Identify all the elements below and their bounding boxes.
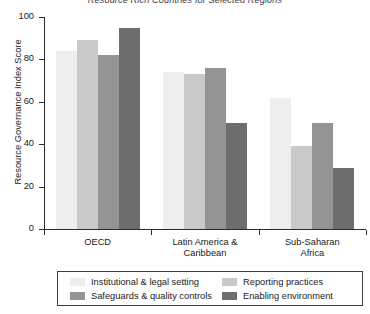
x-group-label-line: Latin America & [151, 237, 258, 248]
legend-label: Reporting practices [243, 277, 323, 287]
legend-entry: Reporting practices [222, 277, 323, 287]
x-group-label-line: OECD [44, 237, 151, 248]
x-tick-mark [151, 230, 152, 235]
y-tick-label: 40 [0, 139, 34, 148]
y-tick-label: 0 [0, 224, 34, 233]
bar-group [163, 17, 247, 229]
legend-entry: Enabling environment [222, 291, 333, 301]
x-group-label: Latin America &Caribbean [151, 237, 258, 259]
legend-swatch [222, 292, 237, 300]
bar [119, 28, 140, 229]
legend-swatch [70, 292, 85, 300]
bar [291, 146, 312, 229]
x-group-label-line: Caribbean [151, 248, 258, 259]
y-tick-label: 20 [0, 182, 34, 191]
x-tick-mark [44, 230, 45, 235]
x-tick-mark [366, 230, 367, 235]
legend-swatch [70, 278, 85, 286]
bar [163, 72, 184, 229]
bar [312, 123, 333, 229]
chart-title: Resource Rich Countries for Selected Reg… [0, 0, 370, 5]
y-tick-label: 60 [0, 97, 34, 106]
x-group-label-line: Sub-Saharan [259, 237, 366, 248]
bar-group [270, 17, 354, 229]
resource-governance-bar-chart: Resource Rich Countries for Selected Reg… [0, 0, 370, 314]
bar [333, 168, 354, 229]
x-group-label: Sub-SaharanAfrica [259, 237, 366, 259]
bar [270, 98, 291, 229]
x-tick-mark [259, 230, 260, 235]
legend-label: Enabling environment [243, 291, 333, 301]
x-group-label: OECD [44, 237, 151, 248]
bar [98, 55, 119, 229]
chart-legend: Institutional & legal settingReporting p… [57, 271, 363, 306]
bar-group [56, 17, 140, 229]
legend-swatch [222, 278, 237, 286]
bar [77, 40, 98, 229]
bar [205, 68, 226, 229]
y-tick-label: 100 [0, 12, 34, 21]
legend-label: Safeguards & quality controls [91, 291, 212, 301]
bar [56, 51, 77, 229]
x-axis-line [44, 229, 366, 230]
x-group-label-line: Africa [259, 248, 366, 259]
bar [226, 123, 247, 229]
plot-area [44, 17, 366, 229]
y-tick-label: 80 [0, 54, 34, 63]
legend-label: Institutional & legal setting [91, 277, 199, 287]
legend-entry: Institutional & legal setting [70, 277, 199, 287]
legend-entry: Safeguards & quality controls [70, 291, 212, 301]
bar [184, 74, 205, 229]
